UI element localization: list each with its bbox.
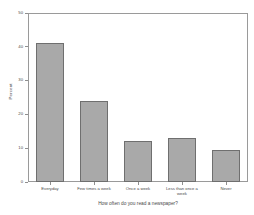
x-axis-title: How often do you read a newspaper? — [28, 201, 248, 206]
y-axis-tick-label: 30 — [18, 77, 23, 82]
y-axis-tick-label: 0 — [21, 179, 23, 184]
x-axis-category-label: Few times a week — [75, 186, 114, 191]
x-axis-tick-mark — [182, 182, 183, 185]
y-axis-title-label: Percent — [8, 83, 13, 99]
x-axis-category-label: Once a week — [119, 186, 158, 191]
x-axis-category-label: Never — [207, 186, 246, 191]
y-axis-tick-label: 40 — [18, 44, 23, 49]
bar — [168, 138, 195, 182]
bar-chart-figure: Percent 01020304050 EverydayFew times a … — [0, 0, 254, 215]
x-axis-tick-mark — [50, 182, 51, 185]
bar — [124, 141, 151, 182]
bar — [212, 150, 239, 182]
bar — [80, 101, 107, 182]
x-axis-tick-mark — [94, 182, 95, 185]
y-axis-tick-label: 50 — [18, 10, 23, 15]
x-axis-tick-mark — [226, 182, 227, 185]
x-axis-category-label: Less than once a week — [163, 186, 202, 196]
x-axis-category-label: Everyday — [31, 186, 70, 191]
bar — [36, 43, 63, 182]
x-axis-tick-mark — [138, 182, 139, 185]
y-axis-tick-label: 20 — [18, 111, 23, 116]
y-axis-title: Percent — [4, 0, 16, 182]
bars-layer — [28, 13, 248, 182]
y-axis-tick-label: 10 — [18, 145, 23, 150]
